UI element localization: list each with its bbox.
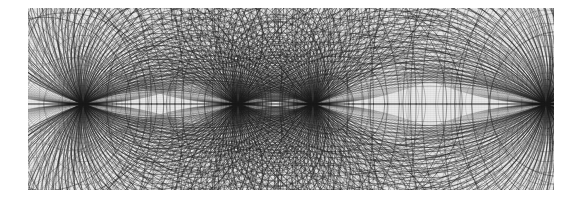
figure-page: Pencils of circles through four collinea…	[0, 0, 572, 209]
circle-pencil-figure	[28, 8, 554, 190]
circle-pencil-canvas	[28, 8, 554, 190]
